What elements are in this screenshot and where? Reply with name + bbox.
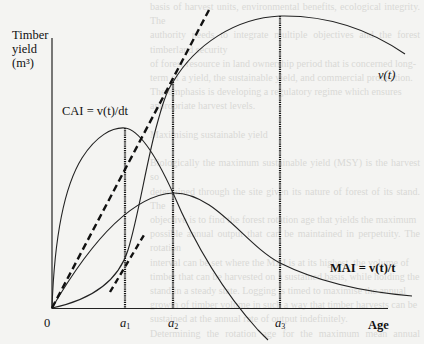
- y-axis-label: Timber yield (m³): [12, 28, 48, 70]
- tangent-line-inflection: [110, 235, 144, 292]
- tick-a2: a2: [168, 316, 178, 331]
- tick-a3: a3: [275, 316, 285, 331]
- volume-curve-label: v(t): [378, 68, 395, 83]
- yield-diagram: [0, 0, 424, 344]
- origin-label: 0: [44, 316, 50, 331]
- x-axis-label: Age: [368, 318, 389, 333]
- y-axis-label-line: yield: [12, 42, 48, 56]
- tick-a1-sub: 1: [126, 322, 130, 331]
- mai-curve-label: MAI = v(t)/t: [330, 261, 395, 276]
- tangent-line-origin: [52, 10, 209, 308]
- y-axis-label-line: Timber: [12, 28, 48, 42]
- mai-curve: [52, 193, 412, 308]
- tick-a1: a1: [120, 316, 130, 331]
- tick-a2-sub: 2: [174, 322, 178, 331]
- y-axis-label-line: (m³): [12, 56, 48, 70]
- cai-curve-label: CAI = v(t)/dt: [62, 104, 128, 119]
- tick-a3-sub: 3: [281, 322, 285, 331]
